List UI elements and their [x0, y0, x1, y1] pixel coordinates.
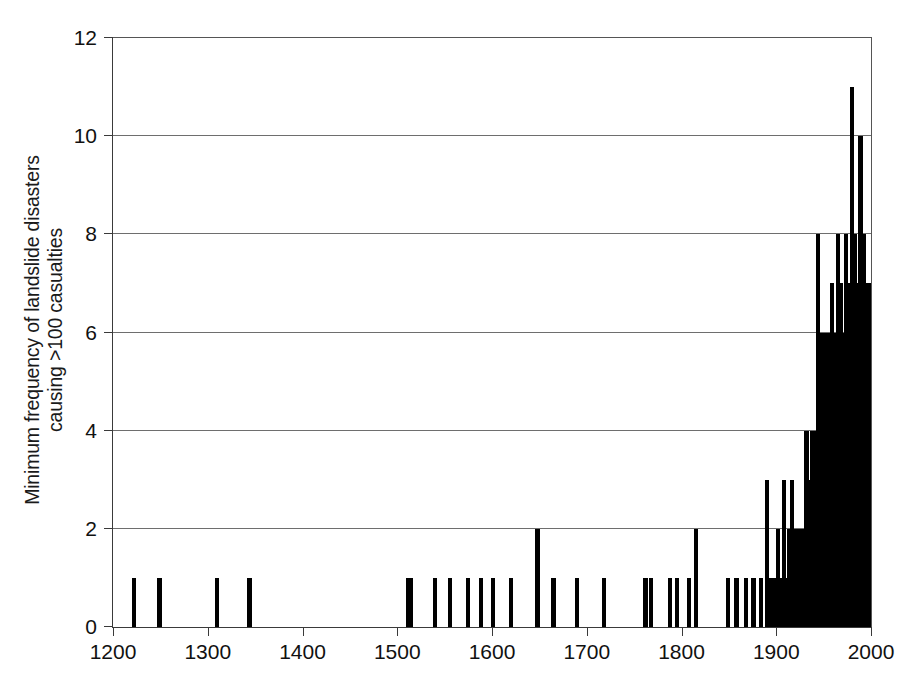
y-tick: 2 — [104, 528, 113, 529]
bar — [491, 578, 495, 627]
bar — [408, 578, 412, 627]
y-tick-label: 4 — [85, 419, 97, 443]
bar — [668, 578, 672, 627]
x-tick-label: 1800 — [658, 640, 705, 664]
bar — [466, 578, 470, 627]
y-tick: 12 — [104, 37, 113, 38]
y-tick: 8 — [104, 233, 113, 234]
bar — [535, 529, 539, 627]
y-tick: 4 — [104, 430, 113, 431]
x-tick — [682, 627, 683, 636]
bar — [575, 578, 579, 627]
bar — [643, 578, 647, 627]
y-tick-label: 2 — [85, 517, 97, 541]
x-tick — [776, 627, 777, 636]
x-tick-label: 1700 — [563, 640, 610, 664]
bar — [687, 578, 691, 627]
y-axis-title-line-2: causing >100 casualties — [44, 228, 67, 432]
x-tick-label: 1600 — [469, 640, 516, 664]
y-tick-label: 12 — [74, 26, 97, 50]
y-tick-label: 0 — [85, 615, 97, 639]
bar — [734, 578, 738, 627]
bar — [867, 283, 871, 627]
y-axis-title-line-1: Minimum frequency of landslide disasters — [21, 155, 44, 505]
x-tick-label: 1200 — [90, 640, 137, 664]
bar — [247, 578, 251, 627]
y-tick-label: 10 — [74, 124, 97, 148]
bar — [509, 578, 513, 627]
bar — [157, 578, 161, 627]
x-tick — [397, 627, 398, 636]
bar — [694, 529, 698, 627]
bar — [551, 578, 555, 627]
x-tick — [587, 627, 588, 636]
bar-series — [113, 38, 871, 627]
y-tick: 10 — [104, 135, 113, 136]
bar — [602, 578, 606, 627]
bar — [433, 578, 437, 627]
bar — [448, 578, 452, 627]
x-tick — [303, 627, 304, 636]
x-tick — [113, 627, 114, 636]
plot-area: 024681012 120013001400150016001700180019… — [112, 37, 872, 628]
bar — [744, 578, 748, 627]
bar — [751, 578, 755, 627]
y-tick-label: 6 — [85, 321, 97, 345]
x-tick — [871, 627, 872, 636]
x-tick — [208, 627, 209, 636]
bar — [215, 578, 219, 627]
landslide-frequency-chart: Minimum frequency of landslide disasters… — [0, 0, 923, 697]
bar — [759, 578, 763, 627]
y-tick-label: 8 — [85, 222, 97, 246]
y-tick: 6 — [104, 332, 113, 333]
bar — [132, 578, 136, 627]
bar — [649, 578, 653, 627]
x-tick-label: 1900 — [753, 640, 800, 664]
bar — [479, 578, 483, 627]
x-tick-label: 1300 — [184, 640, 231, 664]
bar — [675, 578, 679, 627]
x-tick — [492, 627, 493, 636]
y-tick: 0 — [104, 626, 113, 627]
y-axis-title: Minimum frequency of landslide disasters… — [22, 30, 66, 630]
bar — [726, 578, 730, 627]
x-tick-label: 1400 — [279, 640, 326, 664]
x-tick-label: 2000 — [848, 640, 895, 664]
x-tick-label: 1500 — [374, 640, 421, 664]
